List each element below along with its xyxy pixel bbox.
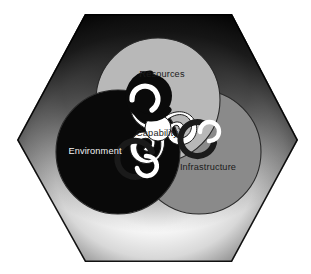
spiral-hook-resources: [128, 74, 172, 118]
label-resources: Resources: [139, 69, 185, 79]
capability-triad-diagram: Resources Environment Infrastructure Cap…: [0, 0, 311, 274]
diagram-canvas: Resources Environment Infrastructure Cap…: [0, 0, 311, 274]
label-capability: Capability: [136, 128, 178, 138]
label-infrastructure: Infrastructure: [180, 162, 236, 172]
label-environment: Environment: [68, 146, 122, 156]
